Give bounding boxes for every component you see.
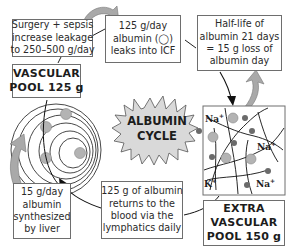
ion-label-na: Na+: [256, 177, 275, 189]
box-text: albumin 21 days: [200, 31, 280, 43]
box-text: POOL 150 g: [207, 230, 281, 244]
extravascular-pool-box: EXTRA VASCULAR POOL 150 g: [203, 200, 285, 246]
ion-label-k: K+: [204, 177, 217, 189]
box-text: blood via the: [111, 210, 174, 222]
box-text: VASCULAR: [13, 67, 80, 81]
box-text: returns to the: [109, 198, 175, 210]
box-text: = 15 g loss of: [206, 43, 272, 55]
box-text: EXTRA: [223, 202, 264, 216]
leak-icf-box: 125 g/day albumin (◯) leaks into ICF: [105, 15, 181, 63]
box-text: to 250–500 g/day: [10, 44, 94, 56]
ion-label-na: Na+: [205, 112, 224, 124]
curved-arrow-left-icon: [10, 134, 26, 186]
lymphatics-box: 125 g of albumin returns to the blood vi…: [101, 181, 183, 239]
albumin-cycle-label: ALBUMIN CYCLE: [124, 114, 190, 144]
box-text: increase leakage: [12, 32, 93, 44]
box-text: Half-life of: [215, 18, 264, 30]
vascular-pool-box: VASCULAR POOL 125 g: [12, 64, 81, 98]
box-text: albumin (◯): [113, 33, 173, 45]
box-text: POOL 125 g: [9, 81, 83, 95]
ion-label-na: Na+: [257, 140, 276, 152]
center-label-line: ALBUMIN: [124, 114, 190, 129]
box-text: leaks into ICF: [111, 45, 176, 57]
box-text: Surgery + sepsis: [12, 19, 93, 31]
box-text: by liver: [24, 223, 60, 235]
box-text: 125 g of albumin: [101, 185, 183, 197]
half-life-box: Half-life of albumin 21 days = 15 g loss…: [197, 15, 282, 71]
box-text: albumin: [23, 199, 62, 211]
box-text: 15 g/day: [21, 186, 63, 198]
box-text: 125 g/day: [119, 20, 167, 32]
surgery-sepsis-box: Surgery + sepsis increase leakage to 250…: [12, 19, 93, 57]
curved-arrow-right-icon: [244, 70, 264, 110]
box-text: synthesized: [13, 211, 70, 223]
box-text: albumin day: [210, 55, 270, 67]
box-text: VASCULAR: [211, 216, 278, 230]
center-label-line: CYCLE: [124, 129, 190, 144]
liver-synthesis-box: 15 g/day albumin synthesized by liver: [13, 183, 71, 239]
albumin-molecules-vascular: [41, 109, 86, 164]
box-text: lymphatics daily: [103, 222, 181, 234]
